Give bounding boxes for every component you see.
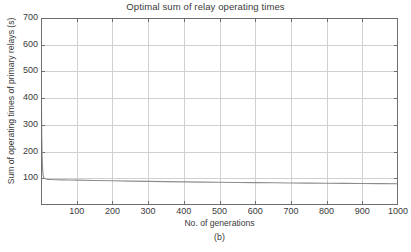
x-tick-100: 100 <box>57 206 97 216</box>
chart-title: Optimal sum of relay operating times <box>0 1 411 12</box>
y-tick-100: 100 <box>0 172 38 182</box>
grid-lines <box>41 18 398 205</box>
y-tick-600: 600 <box>0 39 38 49</box>
y-tick-700: 700 <box>0 12 38 22</box>
x-tick-200: 200 <box>92 206 132 216</box>
x-tick-500: 500 <box>200 206 240 216</box>
figure-panel-b: Optimal sum of relay operating times Sum… <box>0 0 411 252</box>
x-axis-label: No. of generations <box>41 218 398 228</box>
plot-frame <box>42 19 398 205</box>
data-series-group <box>41 18 398 184</box>
x-tick-600: 600 <box>235 206 275 216</box>
y-tick-300: 300 <box>0 119 38 129</box>
x-tick-900: 900 <box>342 206 382 216</box>
tick-marks <box>41 18 398 205</box>
plot-area <box>41 18 398 205</box>
x-tick-700: 700 <box>271 206 311 216</box>
x-tick-300: 300 <box>128 206 168 216</box>
x-tick-400: 400 <box>164 206 204 216</box>
plot-canvas <box>41 18 398 205</box>
y-tick-400: 400 <box>0 92 38 102</box>
x-tick-1000: 1000 <box>378 206 411 216</box>
y-tick-200: 200 <box>0 146 38 156</box>
y-tick-500: 500 <box>0 65 38 75</box>
figure-subcaption: (b) <box>41 232 398 242</box>
y-axis-tick-labels: 100200300400500600700 <box>0 18 38 205</box>
x-tick-800: 800 <box>307 206 347 216</box>
